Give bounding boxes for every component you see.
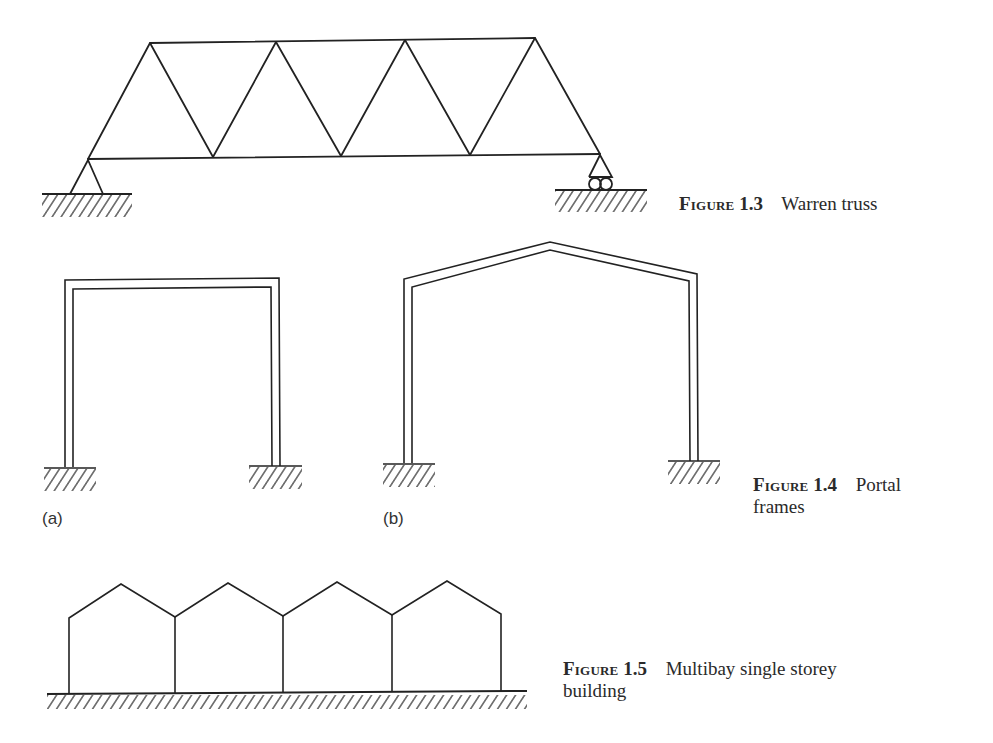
figure-number: 1.5 [623,658,647,679]
sublabel-a: (a) [42,509,63,529]
sublabel-b: (b) [383,509,404,529]
figure-title: Warren truss [781,193,877,214]
structural-figures-drawing [0,0,993,743]
figure-title-line2: building [563,680,626,701]
figure-number: 1.3 [739,193,763,214]
figure-label: Figure [679,193,734,214]
portal-frame-b [383,242,720,487]
multibay-building [47,581,527,709]
figure-number: 1.4 [813,474,837,495]
figure-1-4-caption: Figure 1.4 Portal frames [753,474,901,518]
top-chord [150,38,535,43]
figure-title-line2: frames [753,496,805,517]
bottom-chord [88,154,600,159]
figure-label: Figure [563,658,618,679]
warren-truss [88,38,600,159]
figure-title: Multibay single storey [666,658,837,679]
figure-1-5-caption: Figure 1.5 Multibay single storey buildi… [563,658,837,702]
figure-label: Figure [753,474,808,495]
figure-1-3-caption: Figure 1.3 Warren truss [679,193,877,215]
web-members [88,38,600,159]
portal-frame-a [44,278,302,491]
roller-support [555,155,647,212]
figure-title: Portal [856,474,901,495]
pin-support [42,160,132,217]
